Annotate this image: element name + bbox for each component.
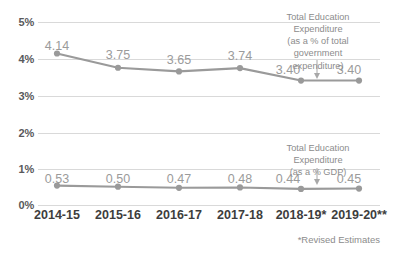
- data-label-lower-1: 0.50: [106, 173, 130, 186]
- x-axis-label-2015-16: 2015-16: [95, 209, 141, 222]
- data-point-marker: [298, 77, 304, 83]
- data-point-marker: [237, 65, 243, 71]
- data-label-upper-1: 3.75: [106, 49, 130, 62]
- education-expenditure-chart: 5% 4% 3% 2% 1% 0% 4.14 3.75 3.65 3.74 3.…: [0, 0, 397, 253]
- data-point-marker: [356, 77, 362, 83]
- x-axis-label-2018-19: 2018-19*: [276, 209, 327, 222]
- annotation-lower-line-2: Expenditure: [268, 154, 368, 166]
- annotation-lower-line-3: (as a % GDP): [268, 166, 368, 178]
- annotation-upper-line-5: expenditure): [268, 60, 368, 72]
- data-point-marker: [356, 185, 362, 191]
- annotation-upper: Total Education Expenditure (as a % of t…: [268, 11, 368, 72]
- annotation-upper-line-2: Expenditure: [268, 23, 368, 35]
- annotation-lower: Total Education Expenditure (as a % GDP): [268, 142, 368, 178]
- data-label-lower-2: 0.47: [167, 173, 191, 186]
- data-label-upper-2: 3.65: [167, 54, 191, 67]
- data-label-lower-3: 0.48: [228, 173, 252, 186]
- data-label-lower-0: 0.53: [45, 173, 69, 186]
- chart-footnote: *Revised Estimates: [298, 235, 380, 245]
- data-point-marker: [298, 186, 304, 192]
- x-axis-label-2014-15: 2014-15: [34, 209, 80, 222]
- data-label-upper-0: 4.14: [45, 40, 69, 53]
- x-axis-label-2016-17: 2016-17: [156, 209, 202, 222]
- annotation-lower-line-1: Total Education: [268, 142, 368, 154]
- data-point-marker: [115, 65, 121, 71]
- series-line-gdp: [57, 186, 359, 189]
- data-label-upper-3: 3.74: [228, 50, 252, 63]
- annotation-upper-line-4: government: [268, 47, 368, 59]
- data-point-marker: [176, 68, 182, 74]
- annotation-upper-line-3: (as a % of total: [268, 35, 368, 47]
- x-axis-label-2019-20: 2019-20**: [331, 209, 387, 222]
- x-axis-label-2017-18: 2017-18: [217, 209, 263, 222]
- annotation-upper-line-1: Total Education: [268, 11, 368, 23]
